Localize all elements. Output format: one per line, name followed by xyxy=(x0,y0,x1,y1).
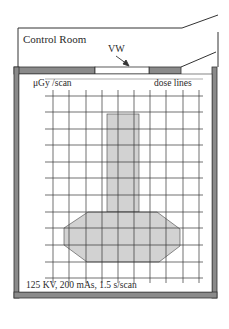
bottom-wall xyxy=(14,292,217,298)
top-wall-right xyxy=(149,67,181,74)
units-label: μGy /scan xyxy=(33,79,72,89)
control-room-label: Control Room xyxy=(23,34,86,45)
vw-arrow xyxy=(116,56,129,66)
right-wall xyxy=(212,67,217,298)
octagon-region xyxy=(64,212,180,262)
left-wall xyxy=(14,67,19,298)
technique-label: 125 KV, 200 mAs, 1.5 s/scan xyxy=(26,281,137,291)
viewing-window xyxy=(95,67,149,74)
top-wall-left xyxy=(14,67,95,74)
dose-lines-label: dose lines xyxy=(154,79,192,89)
viewing-window-label: VW xyxy=(108,44,125,54)
